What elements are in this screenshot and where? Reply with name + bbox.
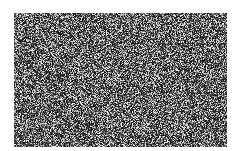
noise-canvas <box>14 13 227 147</box>
noise-texture <box>14 13 227 147</box>
